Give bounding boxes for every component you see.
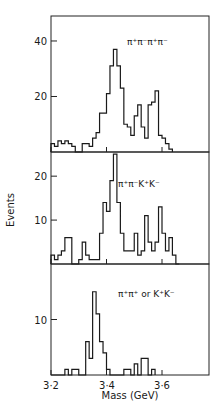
y-axis-label: Events (5, 193, 16, 227)
panel-title: π⁺π⁻π⁺π⁻ (127, 37, 168, 47)
panel-title: π⁺π⁻K⁺K⁻ (118, 179, 160, 189)
x-axis-label: Mass (GeV) (102, 390, 159, 401)
panel-frame (51, 264, 209, 375)
y-tick-label: 10 (34, 215, 47, 226)
panel-frame (51, 152, 209, 264)
panel-title: π⁺π⁺ or K⁺K⁻ (118, 289, 175, 299)
x-tick-label: 3·4 (99, 380, 115, 391)
histogram (51, 292, 155, 375)
y-tick-label: 20 (34, 91, 47, 102)
figure: 2040π⁺π⁻π⁺π⁻1020π⁺π⁻K⁺K⁻10π⁺π⁺ or K⁺K⁻ E… (0, 0, 222, 419)
y-tick-label: 20 (34, 171, 47, 182)
y-tick-label: 10 (34, 315, 47, 326)
y-tick-label: 40 (34, 36, 47, 47)
histogram (51, 154, 179, 264)
x-tick-label: 3·6 (154, 380, 170, 391)
x-tick-label: 3·2 (43, 380, 59, 391)
histogram (51, 49, 172, 152)
